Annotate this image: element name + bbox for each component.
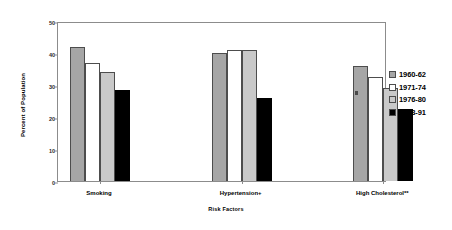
bar-group (70, 23, 130, 181)
legend-label: 1976-80 (399, 95, 426, 104)
y-axis-title: Percent of Population (20, 45, 26, 165)
scan-artifact (355, 91, 358, 95)
bar (100, 72, 115, 181)
legend-label: 1971-74 (399, 83, 426, 92)
bar (398, 109, 413, 181)
bar (115, 90, 130, 181)
legend-item: 1960-62 (389, 70, 426, 79)
legend-swatch-1960-62 (389, 71, 396, 78)
y-axis-tick-mark (55, 119, 58, 120)
bar (242, 50, 257, 181)
x-axis-category-label: Smoking (86, 190, 111, 196)
legend: 1960-62 1971-74 1976-80 1988-91 (389, 70, 426, 117)
legend-label: 1960-62 (399, 70, 426, 79)
legend-item: 1971-74 (389, 83, 426, 92)
x-axis-category-label: High Cholesterol** (356, 190, 409, 196)
legend-swatch-1971-74 (389, 84, 396, 91)
y-axis-tick-mark (55, 87, 58, 88)
x-axis-category-label: Hypertension+ (220, 190, 262, 196)
x-axis-tick-mark (100, 181, 101, 184)
legend-item: 1988-91 (389, 108, 426, 117)
y-axis-tick-mark (55, 23, 58, 24)
y-axis-tick-mark (55, 183, 58, 184)
x-axis-tick-mark (242, 181, 243, 184)
bar (353, 66, 368, 181)
bar (227, 50, 242, 181)
legend-label: 1988-91 (399, 108, 426, 117)
y-axis-tick-mark (55, 151, 58, 152)
y-axis-tick-mark (55, 55, 58, 56)
bar (70, 47, 85, 181)
legend-item: 1976-80 (389, 95, 426, 104)
legend-swatch-1976-80 (389, 96, 396, 103)
x-axis-title: Risk Factors (0, 206, 452, 212)
x-axis-tick-mark (383, 181, 384, 184)
bar-group (212, 23, 272, 181)
bar (368, 77, 383, 181)
bar (257, 98, 272, 181)
bar (212, 53, 227, 181)
bar (85, 63, 100, 181)
legend-swatch-1988-91 (389, 109, 396, 116)
bar-chart-figure: Percent of Population 01020304050 Risk F… (0, 0, 452, 230)
plot-area: 01020304050 (57, 22, 386, 182)
